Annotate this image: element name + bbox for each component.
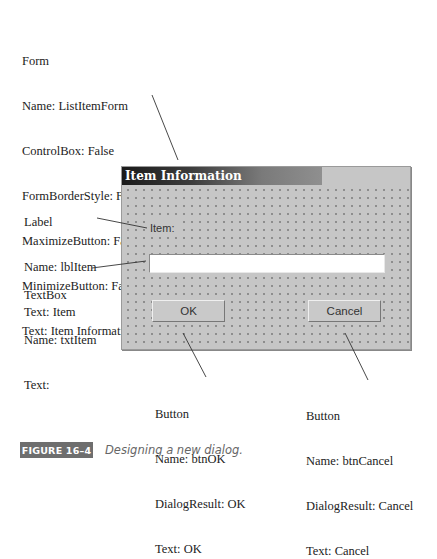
annotation-line: Name: txtItem xyxy=(24,333,97,348)
annotation-line: Label xyxy=(24,215,97,230)
annotation-line: Text: Cancel xyxy=(306,544,413,559)
btn-ok-annotation: Button Name: btnOK DialogResult: OK Text… xyxy=(155,377,246,559)
annotation-line: Button xyxy=(306,409,413,424)
annotation-line: Text: OK xyxy=(155,542,246,557)
annotation-line: Form xyxy=(22,54,178,69)
dialog-title: Item Information xyxy=(125,168,242,184)
ok-button[interactable]: OK xyxy=(152,300,225,322)
annotation-line: TextBox xyxy=(24,288,97,303)
dialog-titlebar[interactable]: Item Information xyxy=(122,167,410,185)
cancel-button[interactable]: Cancel xyxy=(308,300,381,322)
annotation-line: Name: btnCancel xyxy=(306,454,413,469)
caption-text: Designing a new dialog. xyxy=(105,443,243,457)
btn-cancel-annotation: Button Name: btnCancel DialogResult: Can… xyxy=(306,379,413,559)
figure-label: FIGURE 16–4 xyxy=(20,442,93,458)
annotation-line: ControlBox: False xyxy=(22,144,178,159)
item-label: Item: xyxy=(149,220,178,236)
item-information-dialog: Item Information Item: OK Cancel xyxy=(121,166,411,350)
annotation-line: Name: ListItemForm xyxy=(22,99,178,114)
figure-caption: FIGURE 16–4 Designing a new dialog. xyxy=(20,442,243,458)
annotation-line: Button xyxy=(155,407,246,422)
annotation-line: DialogResult: OK xyxy=(155,497,246,512)
item-textbox[interactable] xyxy=(149,254,385,273)
textbox-annotation: TextBox Name: txtItem Text: xyxy=(24,258,97,408)
annotation-line: DialogResult: Cancel xyxy=(306,499,413,514)
annotation-line: Text: xyxy=(24,378,97,393)
